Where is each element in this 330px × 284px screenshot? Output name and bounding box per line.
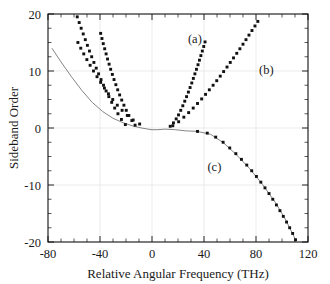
data-point bbox=[86, 44, 89, 47]
data-point bbox=[120, 99, 123, 102]
data-point bbox=[285, 221, 288, 224]
y-tick-label: -10 bbox=[24, 179, 41, 193]
data-point bbox=[76, 41, 79, 44]
data-point bbox=[114, 83, 117, 86]
data-point bbox=[138, 123, 141, 126]
data-point bbox=[100, 78, 103, 81]
data-point bbox=[124, 123, 127, 126]
chart-figure: -80-400408012020100-10-20Relative Angula… bbox=[0, 0, 330, 284]
data-point bbox=[107, 92, 110, 95]
data-point bbox=[116, 88, 119, 91]
data-point bbox=[294, 238, 297, 241]
data-point bbox=[79, 47, 82, 50]
data-point bbox=[222, 70, 225, 73]
data-point bbox=[111, 98, 114, 101]
data-point bbox=[242, 43, 245, 46]
data-point bbox=[282, 215, 285, 218]
data-series-(c) bbox=[196, 130, 297, 241]
data-point bbox=[90, 55, 93, 58]
data-point bbox=[183, 100, 186, 103]
data-point bbox=[232, 56, 235, 59]
data-point bbox=[113, 78, 116, 81]
data-point bbox=[121, 109, 124, 112]
data-point bbox=[259, 181, 262, 184]
y-tick-label: -20 bbox=[24, 236, 41, 250]
data-point bbox=[99, 81, 102, 84]
data-point bbox=[116, 104, 119, 107]
data-point bbox=[245, 164, 248, 167]
data-point bbox=[200, 97, 203, 100]
series-annotation-c: (c) bbox=[207, 160, 221, 174]
data-point bbox=[120, 118, 123, 121]
data-point bbox=[187, 111, 190, 114]
data-point bbox=[192, 77, 195, 80]
data-point bbox=[248, 34, 251, 37]
data-point bbox=[199, 54, 202, 57]
data-point bbox=[125, 109, 128, 112]
data-point bbox=[105, 90, 108, 93]
data-point bbox=[202, 45, 205, 48]
data-point bbox=[179, 109, 182, 112]
figure-root: -80-400408012020100-10-20Relative Angula… bbox=[0, 0, 330, 284]
data-point bbox=[182, 116, 185, 119]
data-point bbox=[109, 68, 112, 71]
data-point bbox=[240, 158, 243, 161]
data-point bbox=[106, 58, 109, 61]
data-point bbox=[195, 68, 198, 71]
data-point bbox=[88, 50, 91, 53]
data-point bbox=[228, 147, 231, 150]
data-point bbox=[196, 130, 199, 133]
x-tick-label: 120 bbox=[299, 247, 318, 261]
data-point bbox=[288, 226, 291, 229]
data-point bbox=[92, 70, 95, 73]
data-point bbox=[271, 198, 274, 201]
data-point bbox=[95, 67, 98, 70]
data-series-(b) bbox=[171, 20, 259, 127]
data-point bbox=[189, 86, 192, 89]
x-tick-label: 0 bbox=[149, 247, 155, 261]
x-axis-title: Relative Angular Frequency (THz) bbox=[87, 266, 269, 281]
data-point bbox=[204, 40, 207, 43]
data-point bbox=[264, 186, 267, 189]
data-point bbox=[76, 15, 79, 18]
data-point bbox=[111, 73, 114, 76]
data-point bbox=[229, 61, 232, 64]
data-point bbox=[197, 63, 200, 66]
y-tick-label: 20 bbox=[29, 8, 42, 22]
x-tick-label: -80 bbox=[40, 247, 57, 261]
data-point bbox=[134, 124, 137, 127]
data-point bbox=[84, 38, 87, 41]
data-point bbox=[278, 209, 281, 212]
data-point bbox=[235, 52, 238, 55]
data-point bbox=[107, 95, 110, 98]
y-tick-label: 10 bbox=[29, 65, 42, 79]
data-point bbox=[204, 93, 207, 96]
data-point bbox=[108, 63, 111, 66]
data-point bbox=[245, 38, 248, 41]
data-point bbox=[169, 125, 172, 128]
data-point bbox=[82, 33, 85, 36]
x-tick-label: 80 bbox=[250, 247, 263, 261]
data-point bbox=[226, 66, 229, 69]
data-point bbox=[222, 141, 225, 144]
data-point bbox=[254, 25, 257, 28]
data-point bbox=[251, 29, 254, 32]
data-series-(a) bbox=[169, 40, 207, 127]
data-point bbox=[105, 52, 108, 55]
data-point bbox=[113, 107, 116, 110]
data-point bbox=[97, 72, 100, 75]
data-point bbox=[82, 52, 85, 55]
data-point bbox=[201, 50, 204, 53]
data-point bbox=[122, 104, 125, 107]
data-point bbox=[99, 32, 102, 35]
data-point bbox=[255, 175, 258, 178]
data-point bbox=[198, 59, 201, 62]
data-point bbox=[171, 124, 174, 127]
series-annotation-b: (b) bbox=[259, 63, 274, 77]
data-point bbox=[172, 121, 175, 124]
data-point bbox=[175, 117, 178, 120]
x-tick-label: 40 bbox=[198, 247, 211, 261]
data-point bbox=[212, 84, 215, 87]
series-annotation-a: (a) bbox=[188, 32, 202, 46]
data-point bbox=[208, 88, 211, 91]
